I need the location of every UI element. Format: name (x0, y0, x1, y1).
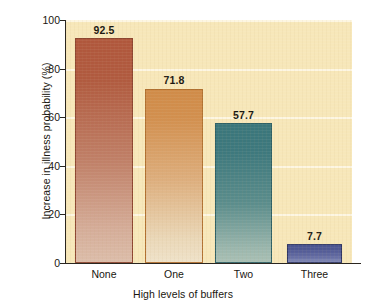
bar-value-label-one: 71.8 (164, 74, 185, 86)
y-tick-label: 0 (14, 257, 60, 269)
chart-figure: Increase in illness probability (%) 100 … (0, 0, 366, 307)
bar-none[interactable] (75, 38, 133, 263)
bar-one[interactable] (145, 89, 203, 264)
y-tick-label: 20 (14, 208, 60, 220)
bar-group-none: 92.5 (75, 20, 133, 263)
bar-value-label-two: 57.7 (233, 109, 254, 121)
y-axis-spine (65, 20, 66, 264)
bar-series: 92.5 71.8 57.7 7.7 (66, 20, 352, 263)
x-tick-label-two: Two (234, 268, 253, 280)
y-tick-label: 80 (14, 63, 60, 75)
bar-value-label-three: 7.7 (307, 230, 322, 242)
bar-group-one: 71.8 (145, 20, 203, 263)
plot-area: 92.5 71.8 57.7 7.7 (66, 20, 352, 263)
bar-value-label-none: 92.5 (94, 24, 115, 36)
y-axis-tick-labels: 100 80 60 40 20 0 (10, 0, 60, 307)
y-tick-label: 100 (14, 14, 60, 26)
x-axis-spine (65, 263, 361, 264)
bar-three[interactable] (287, 244, 342, 263)
y-tick-label: 60 (14, 111, 60, 123)
bar-two[interactable] (215, 123, 272, 263)
x-tick-label-none: None (91, 268, 116, 280)
x-tick-label-one: One (164, 268, 184, 280)
bar-group-two: 57.7 (215, 20, 272, 263)
x-tick-label-three: Three (301, 268, 328, 280)
y-tick-label: 40 (14, 160, 60, 172)
bar-group-three: 7.7 (287, 20, 342, 263)
x-axis-title: High levels of buffers (0, 288, 366, 300)
